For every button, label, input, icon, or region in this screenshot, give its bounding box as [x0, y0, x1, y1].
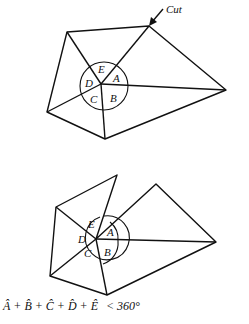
bottom-outer-polygon — [50, 175, 216, 295]
top-net-diagram: Cut E A D C B — [47, 3, 226, 139]
top-spoke — [101, 84, 226, 90]
polyhedron-vertex-diagram: Cut E A D C B E A D C B Â + B̂ + Ĉ + D̂ … — [0, 0, 249, 324]
angle-label-E: E — [87, 218, 95, 230]
cut-label: Cut — [166, 3, 183, 15]
angle-label-B: B — [110, 92, 117, 104]
angle-sum-caption: Â + B̂ + Ĉ + D̂ + Ê < 360° — [2, 299, 140, 313]
angle-label-B: B — [104, 246, 111, 258]
bottom-folded-diagram: E A D C B — [50, 175, 216, 295]
angle-sum-relation: < 360° — [106, 299, 140, 313]
angle-label-E: E — [97, 63, 105, 75]
angle-label-D: D — [84, 77, 93, 89]
angle-label-A: A — [106, 226, 114, 238]
angle-label-D: D — [77, 233, 86, 245]
top-spoke — [101, 84, 105, 139]
bottom-spoke — [96, 239, 216, 242]
angle-label-C: C — [90, 93, 98, 105]
angle-label-C: C — [84, 247, 92, 259]
angle-label-A: A — [112, 72, 120, 84]
top-spoke — [67, 32, 101, 84]
angle-sum-expression: Â + B̂ + Ĉ + D̂ + Ê — [2, 299, 99, 313]
